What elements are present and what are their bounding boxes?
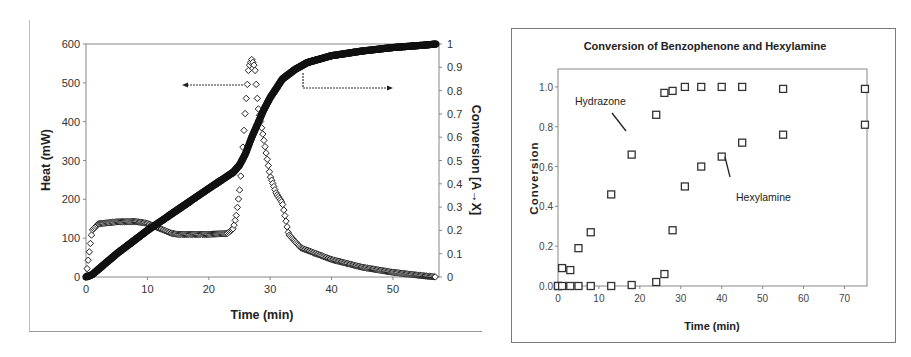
left-x-tick-label: 50 — [387, 283, 399, 295]
left-y2-tick-label: 0.3 — [447, 201, 462, 213]
left-y2-tick-label: 0.7 — [447, 108, 462, 120]
left-y2-tick-label: 0.4 — [447, 178, 462, 190]
right-y-axis-ticks: 0.00.20.40.60.81.0 — [539, 82, 558, 292]
left-y-tick-label: 0 — [74, 271, 80, 283]
data-point-square — [698, 163, 705, 170]
conversion-axis-arrow — [303, 73, 393, 91]
heat-series — [83, 56, 439, 280]
right-x-tick-label: 70 — [839, 293, 851, 304]
left-x-tick-label: 0 — [83, 283, 89, 295]
right-x-axis-label: Time (min) — [684, 320, 740, 332]
left-y2-tick-label: 0.5 — [447, 155, 462, 167]
right-x-tick-label: 30 — [675, 293, 687, 304]
heat-conversion-chart: 01020304050 0100200300400500600 00.10.20… — [39, 38, 483, 322]
hydrazone-pointer — [612, 113, 626, 131]
data-point-square — [718, 83, 725, 90]
left-y2-tick-label: 0.2 — [447, 224, 462, 236]
right-x-tick-label: 0 — [555, 293, 561, 304]
left-x-tick-label: 40 — [325, 283, 337, 295]
left-plot-area — [86, 44, 439, 277]
left-y2-tick-label: 0.1 — [447, 248, 462, 260]
data-point-square — [780, 131, 787, 138]
data-point-square — [628, 282, 635, 289]
heat-axis-arrow — [182, 83, 243, 88]
left-x-tick-label: 30 — [264, 283, 276, 295]
left-y-tick-label: 200 — [62, 193, 80, 205]
left-x-axis-label: Time (min) — [231, 308, 294, 322]
data-point-square — [681, 183, 688, 190]
data-point-square — [861, 121, 868, 128]
right-x-tick-label: 50 — [757, 293, 769, 304]
right-y-tick-label: 1.0 — [539, 82, 553, 93]
data-point-square — [559, 283, 566, 290]
right-x-tick-label: 40 — [716, 293, 728, 304]
left-y2-tick-label: 0.9 — [447, 61, 462, 73]
data-point-square — [661, 271, 668, 278]
data-point-square — [861, 85, 868, 92]
data-point-square — [718, 153, 725, 160]
left-y-axis-label: Heat (mW) — [39, 129, 53, 191]
right-y-tick-label: 0.2 — [539, 241, 553, 252]
charts-canvas: 01020304050 0100200300400500600 00.10.20… — [0, 0, 911, 357]
data-point-square — [575, 283, 582, 290]
data-point-square — [628, 151, 635, 158]
data-point-square — [653, 279, 660, 286]
data-point-square — [661, 89, 668, 96]
data-point-square — [739, 139, 746, 146]
left-x-tick-label: 10 — [141, 283, 153, 295]
data-point-square — [587, 229, 594, 236]
left-y2-tick-label: 0.6 — [447, 131, 462, 143]
hexylamine-pointer — [725, 157, 730, 177]
data-point-square — [575, 245, 582, 252]
left-y-tick-label: 100 — [62, 232, 80, 244]
left-y2-tick-label: 1 — [447, 38, 453, 50]
left-y2-tick-label: 0.8 — [447, 85, 462, 97]
right-chart-title: Conversion of Benzophenone and Hexylamin… — [584, 40, 827, 52]
left-y2-axis-ticks: 00.10.20.30.40.50.60.70.80.91 — [439, 38, 462, 283]
data-point-square — [567, 283, 574, 290]
data-point-square — [739, 83, 746, 90]
data-point-square — [780, 85, 787, 92]
data-point-square — [567, 267, 574, 274]
right-y-tick-label: 0.6 — [539, 162, 553, 173]
data-point-square — [681, 83, 688, 90]
right-x-tick-label: 60 — [798, 293, 810, 304]
benzophenone-hexylamine-chart: Conversion of Benzophenone and Hexylamin… — [528, 40, 868, 332]
left-y-axis-ticks: 0100200300400500600 — [62, 38, 86, 283]
conversion-series — [82, 40, 439, 280]
data-point-square — [669, 87, 676, 94]
right-x-tick-label: 10 — [593, 293, 605, 304]
left-x-tick-label: 20 — [203, 283, 215, 295]
left-y2-tick-label: 0 — [447, 271, 453, 283]
data-point-square — [653, 111, 660, 118]
hexylamine-label: Hexylamine — [736, 191, 791, 203]
right-x-axis-ticks: 010203040506070 — [555, 286, 850, 304]
left-y-tick-label: 400 — [62, 116, 80, 128]
left-x-axis-ticks: 01020304050 — [83, 277, 399, 295]
left-y-tick-label: 500 — [62, 77, 80, 89]
hydrazone-label: Hydrazone — [575, 95, 626, 107]
left-y2-axis-label: Conversion [A→X] — [469, 105, 483, 215]
right-y-tick-label: 0.8 — [539, 122, 553, 133]
right-series-markers — [555, 83, 869, 289]
right-y-axis-label: Conversion — [528, 141, 540, 214]
data-point-square — [587, 283, 594, 290]
right-y-tick-label: 0.4 — [539, 201, 553, 212]
data-point-square — [559, 265, 566, 272]
data-point-square — [608, 283, 615, 290]
left-y-tick-label: 300 — [62, 155, 80, 167]
data-point-square — [608, 191, 615, 198]
right-x-tick-label: 20 — [634, 293, 646, 304]
right-y-tick-label: 0.0 — [539, 281, 553, 292]
data-point-square — [669, 227, 676, 234]
data-point-square — [698, 83, 705, 90]
left-y-tick-label: 600 — [62, 38, 80, 50]
